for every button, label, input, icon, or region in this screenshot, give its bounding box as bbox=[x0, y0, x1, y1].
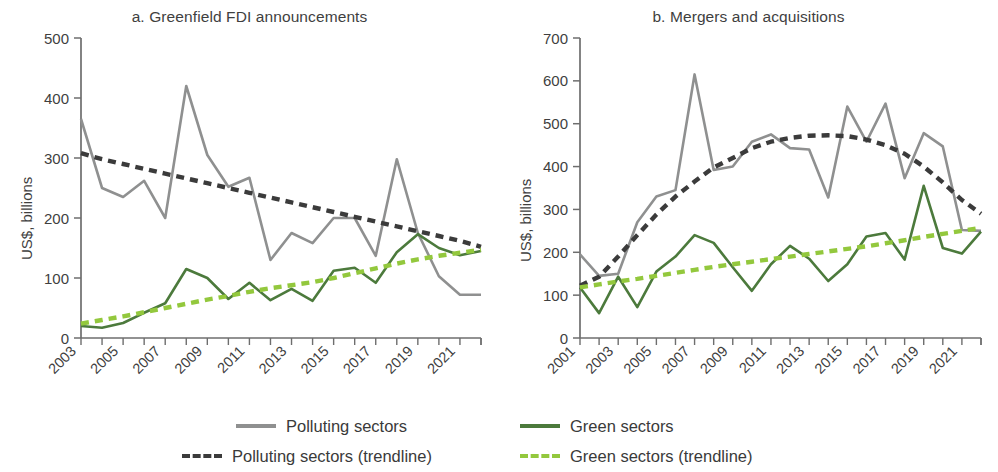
legend-item-polluting-sectors-trendline: Polluting sectors (trendline) bbox=[182, 442, 432, 470]
y-tick-label: 300 bbox=[543, 201, 568, 218]
x-tick-label: 2019 bbox=[382, 343, 416, 377]
legend-label-polluting-sectors: Polluting sectors bbox=[286, 418, 407, 435]
x-tick-label: 2019 bbox=[888, 343, 922, 377]
legend-label-polluting-sectors-trendline: Polluting sectors (trendline) bbox=[232, 448, 432, 465]
series-solid-polluting bbox=[580, 74, 981, 275]
y-tick-label: 600 bbox=[543, 72, 568, 89]
legend-label-green-sectors-trendline: Green sectors (trendline) bbox=[570, 448, 753, 465]
x-tick-label: 2013 bbox=[773, 343, 807, 377]
series-solid-polluting bbox=[81, 86, 481, 295]
x-tick-label: 2009 bbox=[697, 343, 731, 377]
y-tick-label: 100 bbox=[44, 270, 69, 287]
y-tick-label: 200 bbox=[543, 244, 568, 261]
x-tick-label: 2005 bbox=[620, 343, 654, 377]
chart-panel-greenfield-fdi: a. Greenfield FDI announcements US$, bil… bbox=[0, 0, 499, 405]
series-dashed-green_trend bbox=[81, 250, 481, 324]
legend-swatch-green-sectors-trendline bbox=[520, 454, 560, 458]
x-tick-label: 2003 bbox=[582, 343, 616, 377]
legend-label-green-sectors: Green sectors bbox=[570, 418, 674, 435]
figure-container: a. Greenfield FDI announcements US$, bil… bbox=[0, 0, 998, 472]
x-tick-label: 2021 bbox=[926, 343, 960, 377]
y-tick-label: 400 bbox=[543, 158, 568, 175]
legend-swatch-polluting-sectors bbox=[236, 424, 276, 428]
series-dashed-polluting_trend bbox=[580, 135, 981, 285]
x-tick-label: 2001 bbox=[544, 343, 578, 377]
chart-panel-mergers-acquisitions: b. Mergers and acquisitions US$, billion… bbox=[499, 0, 998, 405]
x-tick-label: 2009 bbox=[171, 343, 205, 377]
figure-legend: Polluting sectors Green sectors Pollutin… bbox=[0, 405, 998, 472]
panel-b-plot: 0100200300400500600700200120032005200720… bbox=[499, 0, 998, 405]
x-tick-label: 2005 bbox=[87, 343, 121, 377]
x-tick-label: 2011 bbox=[214, 343, 247, 376]
series-solid-green bbox=[580, 186, 981, 313]
x-tick-label: 2007 bbox=[659, 343, 693, 377]
x-tick-label: 2015 bbox=[811, 343, 845, 377]
y-tick-label: 100 bbox=[543, 287, 568, 304]
panel-a-plot: 0100200300400500200320052007200920112013… bbox=[0, 0, 499, 405]
x-tick-label: 2003 bbox=[45, 343, 79, 377]
y-tick-label: 500 bbox=[44, 30, 69, 47]
y-tick-label: 500 bbox=[543, 115, 568, 132]
y-tick-label: 400 bbox=[44, 90, 69, 107]
series-dashed-polluting_trend bbox=[81, 153, 481, 247]
legend-item-green-sectors: Green sectors bbox=[520, 412, 674, 440]
y-tick-label: 700 bbox=[543, 30, 568, 47]
x-tick-label: 2017 bbox=[850, 343, 884, 377]
legend-swatch-green-sectors bbox=[520, 424, 560, 428]
x-tick-label: 2017 bbox=[340, 343, 374, 377]
x-tick-label: 2013 bbox=[256, 343, 290, 377]
legend-item-polluting-sectors: Polluting sectors bbox=[236, 412, 407, 440]
series-dashed-green_trend bbox=[580, 228, 981, 288]
x-tick-label: 2007 bbox=[129, 343, 163, 377]
legend-swatch-polluting-sectors-trendline bbox=[182, 454, 222, 458]
x-tick-label: 2015 bbox=[298, 343, 332, 377]
y-tick-label: 300 bbox=[44, 150, 69, 167]
x-tick-label: 2021 bbox=[424, 343, 458, 377]
x-tick-label: 2011 bbox=[736, 343, 769, 376]
y-tick-label: 200 bbox=[44, 210, 69, 227]
legend-item-green-sectors-trendline: Green sectors (trendline) bbox=[520, 442, 753, 470]
